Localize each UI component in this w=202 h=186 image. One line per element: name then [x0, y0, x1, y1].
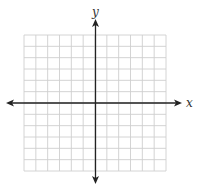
x-axis-label: x — [186, 96, 193, 110]
coordinate-plane: x y — [0, 0, 202, 186]
y-axis-label: y — [91, 5, 99, 19]
